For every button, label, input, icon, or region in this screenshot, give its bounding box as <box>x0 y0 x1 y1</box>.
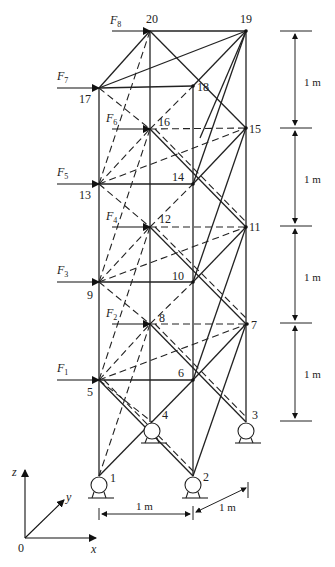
force-label-f8: F8 <box>109 13 121 29</box>
coordinate-axes <box>25 470 96 538</box>
node-labels: 20 19 17 18 16 15 14 13 12 11 10 9 8 7 6… <box>79 12 261 485</box>
node-label-13: 13 <box>79 188 91 202</box>
dashed-members <box>99 31 247 476</box>
node-label-4: 4 <box>162 408 168 422</box>
force-label-f3: F3 <box>56 263 68 279</box>
node-label-5: 5 <box>87 385 93 399</box>
node-label-10: 10 <box>172 269 184 283</box>
dimension-label-panel-4: 1 m <box>304 76 321 88</box>
node-label-2: 2 <box>203 470 209 484</box>
support-3 <box>235 423 261 443</box>
axis-origin-label: 0 <box>18 541 24 555</box>
dimension-label-y: 1 m <box>219 501 236 513</box>
force-label-f5: F5 <box>56 165 68 181</box>
force-label-f2: F2 <box>105 306 117 322</box>
node-label-6: 6 <box>178 366 184 380</box>
dimension-label-panel-1: 1 m <box>304 368 321 380</box>
axis-label-x: x <box>90 542 97 556</box>
force-label-f1: F1 <box>56 361 68 377</box>
node-label-1: 1 <box>110 471 116 485</box>
y-axis <box>25 500 64 538</box>
dimension-label-panel-3: 1 m <box>304 173 321 185</box>
force-label-f4: F4 <box>105 209 117 225</box>
node-label-3: 3 <box>252 408 258 422</box>
node-label-14: 14 <box>172 170 184 184</box>
force-label-f6: F6 <box>105 111 117 127</box>
node-label-18: 18 <box>197 80 209 94</box>
node-label-16: 16 <box>158 115 170 129</box>
node-label-17: 17 <box>79 92 91 106</box>
node-label-9: 9 <box>87 288 93 302</box>
node-label-12: 12 <box>159 212 171 226</box>
height-dimensions <box>280 31 312 421</box>
axis-label-z: z <box>11 465 17 479</box>
axis-label-y: y <box>65 490 72 504</box>
node-label-20: 20 <box>146 12 158 26</box>
dimension-label-panel-2: 1 m <box>304 271 321 283</box>
node-label-7: 7 <box>251 318 257 332</box>
force-label-f7: F7 <box>56 69 68 85</box>
node-label-11: 11 <box>249 220 261 234</box>
truss-diagram: F8 F7 F6 F5 F4 F3 F2 F1 20 19 17 18 16 1… <box>0 0 335 567</box>
node-label-19: 19 <box>240 12 252 26</box>
dimension-label-x: 1 m <box>136 500 153 512</box>
node-label-8: 8 <box>159 311 165 325</box>
node-label-15: 15 <box>249 122 261 136</box>
